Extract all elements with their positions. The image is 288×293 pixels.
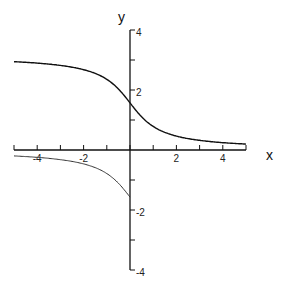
y-tick-label: -2	[136, 207, 145, 218]
y-tick-label: 2	[136, 87, 142, 98]
y-tick-label: -4	[136, 267, 145, 278]
x-tick-label: -2	[79, 153, 88, 164]
x-tick-label: 4	[220, 153, 226, 164]
chart-canvas: -4-22442-2-4 y x	[0, 0, 288, 293]
curve-lower-branch	[14, 156, 130, 197]
x-tick-label: -4	[33, 153, 42, 164]
x-axis-label: x	[266, 147, 273, 163]
y-tick-label: 4	[136, 27, 142, 38]
y-axis-label: y	[118, 9, 125, 25]
x-tick-label: 2	[174, 153, 180, 164]
